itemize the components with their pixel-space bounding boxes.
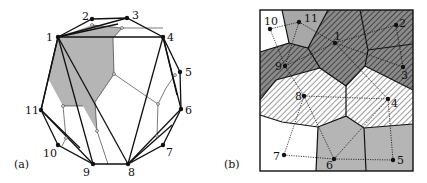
vertex-label: 4 xyxy=(391,97,398,110)
vertex-label: 10 xyxy=(264,15,278,28)
vertex-label: 1 xyxy=(334,30,341,43)
vertex-dot xyxy=(391,158,395,162)
figure: 1234567891011 (a) xyxy=(0,0,427,183)
vertex-label: 1 xyxy=(46,31,53,44)
panel-a: 1234567891011 (a) xyxy=(14,9,192,179)
vertex-label: 6 xyxy=(185,104,192,117)
vertex-label: 7 xyxy=(166,146,173,159)
vertex-label: 5 xyxy=(397,154,404,167)
caption-a: (a) xyxy=(14,158,29,171)
vertex-dot xyxy=(161,35,165,39)
region-2 xyxy=(360,10,413,50)
vertex-dot xyxy=(282,153,286,157)
vertex-dot xyxy=(297,20,301,24)
vertex-dot xyxy=(91,162,95,166)
vertex-label: 2 xyxy=(82,10,89,23)
vertex-label: 3 xyxy=(401,69,408,82)
vertex-label: 4 xyxy=(167,31,174,44)
vertex-label: 7 xyxy=(273,150,280,163)
vertex-label: 3 xyxy=(132,9,139,22)
vertex-dot xyxy=(125,16,129,20)
vertex-label: 2 xyxy=(399,17,406,30)
vertex-dot xyxy=(178,70,182,74)
panel-b: 1011123984765 (b) xyxy=(224,10,413,172)
vertex-dot xyxy=(302,94,306,98)
vertex-label: 9 xyxy=(275,60,282,73)
caption-b: (b) xyxy=(224,158,240,171)
vertex-label: 10 xyxy=(43,147,57,160)
vertex-label: 6 xyxy=(326,159,333,172)
vertex-label: 11 xyxy=(304,12,318,25)
vertex-label: 9 xyxy=(83,166,90,179)
vertex-dot xyxy=(39,108,43,112)
vertex-label: 11 xyxy=(25,104,39,117)
region-5 xyxy=(364,124,413,171)
vertex-dot xyxy=(179,107,183,111)
vertex-dot xyxy=(386,97,390,101)
vertex-label: 8 xyxy=(295,90,302,103)
vertex-dot xyxy=(56,35,60,39)
vertex-label: 5 xyxy=(185,66,192,79)
vertex-label: 8 xyxy=(128,166,135,179)
vertex-dot xyxy=(283,64,287,68)
vertex-dot xyxy=(90,17,94,21)
vertex-dot xyxy=(394,23,398,27)
vertex-dot xyxy=(161,143,165,147)
